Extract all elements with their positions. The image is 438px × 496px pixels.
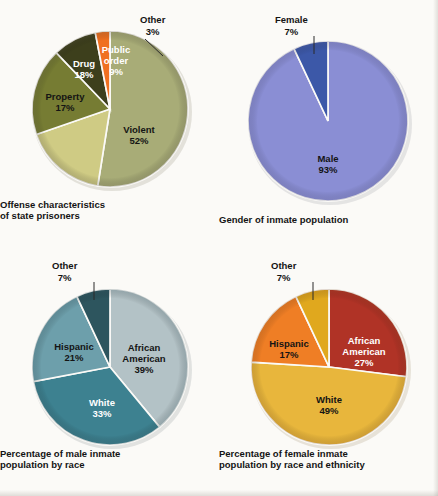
caption-chart-3: Percentage of male inmate population by … bbox=[0, 448, 219, 470]
pie-4-rim-shade bbox=[251, 289, 407, 445]
pie-svg-3: African American 39% White 33% Hispanic … bbox=[27, 284, 193, 450]
caption-chart-2: Gender of inmate population bbox=[219, 214, 438, 225]
label-female-line2: 7% bbox=[275, 26, 308, 38]
chart-offense-characteristics: Violent 52% Property 17% Drug 18% Public… bbox=[0, 0, 219, 248]
caption-chart-1-line1: Offense characteristics bbox=[0, 199, 219, 210]
pie-offense-characteristics: Violent 52% Property 17% Drug 18% Public… bbox=[27, 26, 193, 192]
label-other-3-line1: Other bbox=[52, 260, 77, 272]
pie-gender: Male 93% bbox=[243, 36, 415, 208]
caption-chart-2-line1: Gender of inmate population bbox=[219, 214, 438, 225]
label-other-3-line2: 7% bbox=[52, 272, 77, 284]
pie-female-by-race: African American 27% White 49% Hispanic … bbox=[246, 284, 412, 450]
caption-chart-1-line2: of state prisoners bbox=[0, 210, 219, 221]
pie-male-by-race: African American 39% White 33% Hispanic … bbox=[27, 284, 193, 450]
caption-chart-4-line1: Percentage of female inmate bbox=[219, 448, 438, 459]
label-other-1-line1: Other bbox=[140, 14, 165, 26]
pie-3-rim-shade bbox=[32, 289, 188, 445]
pie-svg-4: African American 27% White 49% Hispanic … bbox=[246, 284, 412, 450]
label-other-1: Other 3% bbox=[140, 14, 165, 37]
label-other-4: Other 7% bbox=[271, 260, 296, 283]
caption-chart-1: Offense characteristics of state prisone… bbox=[0, 199, 219, 221]
label-female-line1: Female bbox=[275, 14, 308, 26]
label-other-4-line2: 7% bbox=[271, 272, 296, 284]
label-female: Female 7% bbox=[275, 14, 308, 37]
pie-svg-1: Violent 52% Property 17% Drug 18% Public… bbox=[27, 26, 193, 192]
label-other-4-line1: Other bbox=[271, 260, 296, 272]
label-other-3: Other 7% bbox=[52, 260, 77, 283]
pie-svg-2: Male 93% bbox=[243, 36, 415, 208]
four-pie-chart-figure: Violent 52% Property 17% Drug 18% Public… bbox=[0, 0, 438, 496]
caption-chart-3-line1: Percentage of male inmate bbox=[0, 448, 219, 459]
caption-chart-4: Percentage of female inmate population b… bbox=[219, 448, 438, 470]
chart-gender-of-inmate-population: Male 93% Female 7% Gender of inmate popu… bbox=[219, 0, 438, 248]
label-other-1-line2: 3% bbox=[140, 26, 165, 38]
pie-2-rim-shade bbox=[248, 41, 408, 201]
caption-chart-3-line2: population by race bbox=[0, 459, 219, 470]
chart-female-inmate-by-race-ethnicity: African American 27% White 49% Hispanic … bbox=[219, 248, 438, 496]
pie-1-rim-shade bbox=[32, 31, 188, 187]
caption-chart-4-line2: population by race and ethnicity bbox=[219, 459, 438, 470]
chart-male-inmate-by-race: African American 39% White 33% Hispanic … bbox=[0, 248, 219, 496]
